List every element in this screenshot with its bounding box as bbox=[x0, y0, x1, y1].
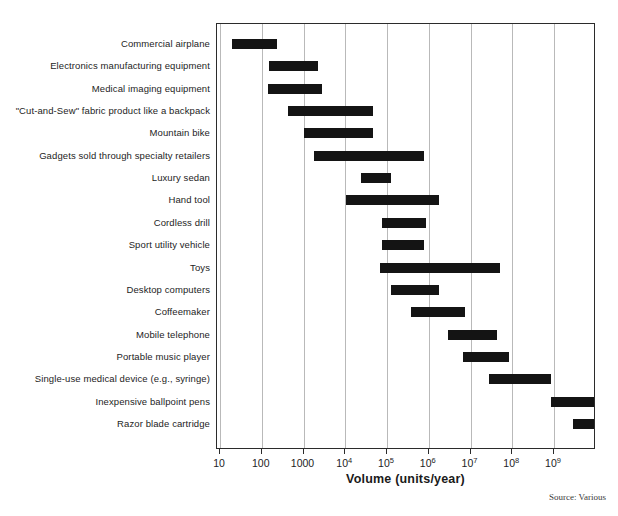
source-note: Source: Various bbox=[549, 492, 606, 502]
category-label: Desktop computers bbox=[126, 284, 210, 295]
category-label: Single-use medical device (e.g., syringe… bbox=[35, 373, 210, 384]
category-label: Inexpensive ballpoint pens bbox=[95, 396, 210, 407]
range-bar bbox=[380, 263, 501, 273]
tick-label-10^8: 108 bbox=[503, 457, 519, 469]
range-bar bbox=[391, 285, 440, 295]
category-label: Sport utility vehicle bbox=[129, 239, 210, 250]
tick-mark-10^8 bbox=[511, 449, 512, 454]
tick-label-10^7: 107 bbox=[462, 457, 478, 469]
range-bar bbox=[232, 39, 278, 49]
gridline-10^8 bbox=[512, 24, 513, 448]
tick-label-1000: 1000 bbox=[291, 457, 314, 469]
tick-label-10: 10 bbox=[213, 457, 225, 469]
category-label: Mobile telephone bbox=[136, 329, 210, 340]
range-bar bbox=[314, 151, 424, 161]
tick-label-100: 100 bbox=[252, 457, 270, 469]
category-label: Commercial airplane bbox=[121, 38, 210, 49]
category-label: Toys bbox=[190, 262, 210, 273]
gridline-10^7 bbox=[471, 24, 472, 448]
figure-range-bar-chart: Commercial airplaneElectronics manufactu… bbox=[0, 0, 618, 516]
category-label: Hand tool bbox=[168, 194, 210, 205]
category-label: Cordless drill bbox=[154, 217, 210, 228]
category-label: Luxury sedan bbox=[152, 172, 210, 183]
category-label: Gadgets sold through specialty retailers bbox=[39, 150, 210, 161]
tick-mark-100 bbox=[261, 449, 262, 454]
range-bar bbox=[463, 352, 509, 362]
range-bar bbox=[361, 173, 391, 183]
range-bar bbox=[551, 397, 594, 407]
gridline-10^4 bbox=[345, 24, 346, 448]
range-bar bbox=[382, 240, 424, 250]
range-bar bbox=[288, 106, 373, 116]
category-label: Electronics manufacturing equipment bbox=[50, 60, 210, 71]
tick-mark-1000 bbox=[303, 449, 304, 454]
gridline-100 bbox=[262, 24, 263, 448]
gridline-10^9 bbox=[554, 24, 555, 448]
range-bar bbox=[573, 419, 594, 429]
gridline-10^5 bbox=[387, 24, 388, 448]
tick-label-10^9: 109 bbox=[545, 457, 561, 469]
category-label: Medical imaging equipment bbox=[92, 83, 210, 94]
tick-mark-10^9 bbox=[553, 449, 554, 454]
range-bar bbox=[346, 195, 439, 205]
tick-mark-10^4 bbox=[344, 449, 345, 454]
category-label: Mountain bike bbox=[150, 127, 210, 138]
x-axis-title: Volume (units/year) bbox=[216, 472, 595, 486]
range-bar bbox=[269, 61, 317, 71]
tick-label-10^4: 104 bbox=[336, 457, 352, 469]
tick-mark-10^7 bbox=[470, 449, 471, 454]
range-bar bbox=[411, 307, 465, 317]
range-bar bbox=[489, 374, 551, 384]
range-bar bbox=[304, 128, 373, 138]
range-bar bbox=[448, 330, 497, 340]
gridline-10 bbox=[220, 24, 221, 448]
category-label: Portable music player bbox=[117, 351, 210, 362]
category-label: "Cut-and-Sew" fabric product like a back… bbox=[16, 105, 210, 116]
range-bar bbox=[268, 84, 322, 94]
tick-mark-10^6 bbox=[428, 449, 429, 454]
tick-mark-10 bbox=[219, 449, 220, 454]
category-label: Coffeemaker bbox=[155, 306, 210, 317]
gridline-10^6 bbox=[429, 24, 430, 448]
category-label: Razor blade cartridge bbox=[117, 418, 210, 429]
tick-label-10^6: 106 bbox=[420, 457, 436, 469]
tick-mark-10^5 bbox=[386, 449, 387, 454]
tick-label-10^5: 105 bbox=[378, 457, 394, 469]
range-bar bbox=[382, 218, 426, 228]
